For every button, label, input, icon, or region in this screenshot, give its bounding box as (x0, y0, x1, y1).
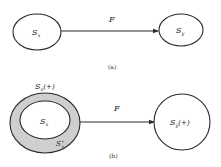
diagram-canvas: Sx F Sy (a) Sx(+) Sx S+x F Sy(+) (b) (0, 0, 221, 167)
panel-a: Sx F Sy (a) (13, 14, 203, 70)
edge-label-b: F (113, 104, 120, 113)
panel-b: Sx(+) Sx S+x F Sy(+) (b) (10, 82, 210, 159)
ring-region-label: S+x (56, 139, 65, 149)
edge-label-a: F (108, 15, 115, 24)
outer-region-label: Sx(+) (35, 82, 55, 92)
caption-b: (b) (109, 152, 118, 159)
caption-a: (a) (108, 63, 116, 70)
